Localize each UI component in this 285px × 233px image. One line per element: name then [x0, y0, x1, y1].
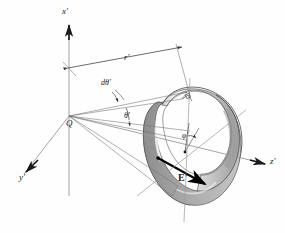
y-axis-arrow — [26, 160, 38, 172]
label-radius: r' — [124, 52, 129, 62]
z-axis-arrow — [250, 160, 265, 164]
diagram-canvas — [0, 0, 285, 233]
radius-ext-left — [63, 62, 76, 76]
axis-label-z: z' — [270, 156, 275, 166]
label-e-field: E' — [178, 172, 187, 183]
y-axis-line — [24, 116, 69, 174]
origin-label-q: Q — [66, 118, 73, 128]
label-phi: φ' — [182, 131, 188, 140]
dtheta-leader — [112, 90, 124, 102]
physics-ring-diagram: x' y' z' Q r' dθ' θ' φ' E' — [0, 0, 285, 233]
label-dtheta: dθ' — [101, 78, 111, 87]
label-theta: θ' — [124, 111, 130, 120]
axis-label-x: x' — [62, 6, 68, 16]
dtheta-arc — [112, 92, 118, 102]
axis-label-y: y' — [19, 172, 25, 182]
